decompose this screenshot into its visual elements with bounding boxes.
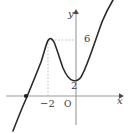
x-intercept-dot [24,94,28,98]
y-tick-label-6: 6 [84,34,90,44]
x-tick-label-neg-2: −2 [40,99,55,109]
cubic-graph-figure: y x 6 2 −2 O [0,0,128,133]
y-tick-label-2: 2 [71,81,77,91]
y-axis-label: y [68,9,74,19]
graph-canvas [0,0,128,133]
origin-label: O [64,100,71,109]
cubic-curve [13,0,113,131]
y-axis-arrow-icon [73,9,79,14]
x-axis-label: x [117,96,123,106]
